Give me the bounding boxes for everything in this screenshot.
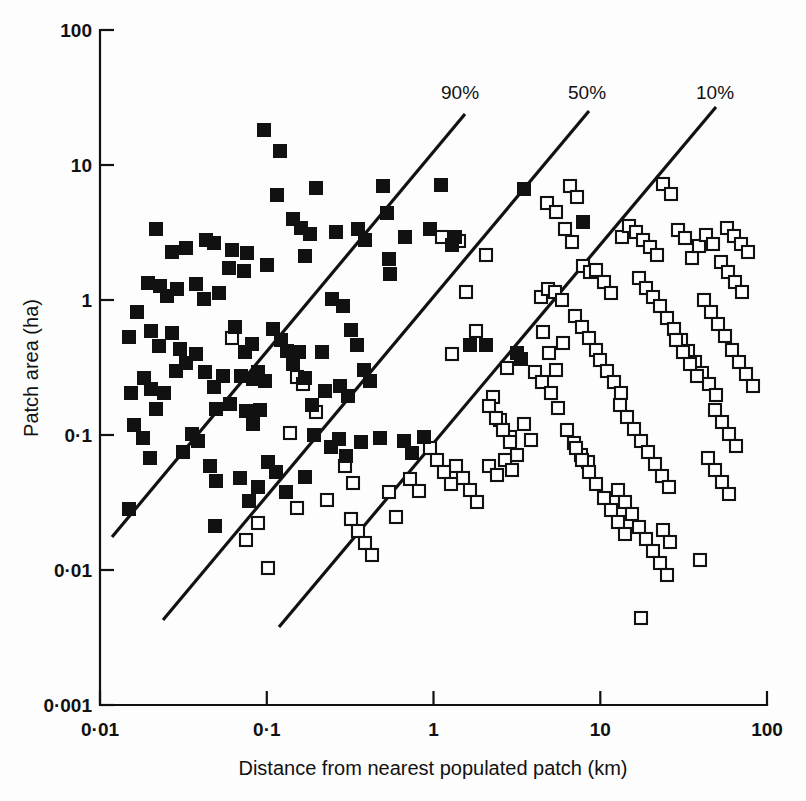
data-point-unoccupied	[383, 486, 395, 498]
y-tick-label: 10	[71, 155, 92, 176]
data-point-unoccupied	[284, 427, 296, 439]
data-point-unoccupied	[628, 423, 640, 435]
x-tick-label: 10	[590, 719, 611, 740]
data-point-occupied	[449, 231, 462, 244]
x-axis-ticks	[100, 691, 767, 705]
data-point-unoccupied	[446, 348, 458, 360]
data-point-unoccupied	[240, 534, 252, 546]
data-point-unoccupied	[621, 411, 633, 423]
data-point-occupied	[310, 182, 323, 195]
data-point-occupied	[131, 306, 144, 319]
data-point-occupied	[125, 387, 138, 400]
data-point-unoccupied	[470, 325, 482, 337]
data-point-unoccupied	[654, 300, 666, 312]
data-point-occupied	[204, 460, 217, 473]
data-point-unoccupied	[605, 287, 617, 299]
data-point-occupied	[166, 246, 179, 259]
data-point-unoccupied	[559, 223, 571, 235]
data-point-unoccupied	[723, 428, 735, 440]
y-tick-label: 1	[81, 290, 92, 311]
data-point-occupied	[198, 293, 211, 306]
y-axis-ticks	[100, 30, 114, 705]
data-point-occupied	[261, 259, 274, 272]
data-point-unoccupied	[705, 306, 717, 318]
data-point-occupied	[208, 237, 221, 250]
data-point-unoccupied	[707, 238, 719, 250]
data-point-unoccupied	[642, 446, 654, 458]
data-point-occupied	[374, 432, 387, 445]
data-point-unoccupied	[404, 473, 416, 485]
data-point-unoccupied	[619, 496, 631, 508]
data-point-occupied	[518, 183, 531, 196]
data-point-occupied	[254, 404, 267, 417]
data-point-occupied	[377, 180, 390, 193]
data-point-unoccupied	[504, 436, 516, 448]
data-point-occupied	[224, 398, 237, 411]
data-point-unoccupied	[663, 481, 675, 493]
figure-root: 100 10 1 0·1 0·01 0·001 0·01 0·1 1 10 10…	[0, 0, 806, 801]
data-point-unoccupied	[345, 513, 357, 525]
data-point-occupied	[480, 339, 493, 352]
data-point-occupied	[406, 447, 419, 460]
data-point-unoccupied	[661, 569, 673, 581]
data-point-unoccupied	[291, 502, 303, 514]
data-point-occupied	[247, 418, 260, 431]
data-point-unoccupied	[712, 318, 724, 330]
data-point-occupied	[270, 466, 283, 479]
y-axis-title: Patch area (ha)	[20, 299, 42, 437]
data-point-occupied	[316, 346, 329, 359]
data-point-unoccupied	[716, 416, 728, 428]
data-point-occupied	[340, 450, 353, 463]
data-point-unoccupied	[635, 612, 647, 624]
data-point-occupied	[241, 247, 254, 260]
data-point-occupied	[293, 346, 306, 359]
data-point-occupied	[424, 223, 437, 236]
data-point-unoccupied	[570, 442, 582, 454]
data-point-unoccupied	[501, 362, 513, 374]
data-point-unoccupied	[506, 464, 518, 476]
y-tick-label: 0·01	[54, 560, 92, 581]
data-point-occupied	[577, 216, 590, 229]
data-point-unoccupied	[413, 485, 425, 497]
data-point-unoccupied	[321, 494, 333, 506]
data-point-occupied	[166, 327, 179, 340]
data-point-unoccupied	[262, 562, 274, 574]
data-point-unoccupied	[686, 252, 698, 264]
data-point-occupied	[351, 339, 364, 352]
data-point-occupied	[177, 446, 190, 459]
data-point-unoccupied	[457, 472, 469, 484]
data-point-occupied	[239, 346, 252, 359]
data-point-unoccupied	[483, 400, 495, 412]
data-point-unoccupied	[736, 286, 748, 298]
data-point-occupied	[333, 433, 346, 446]
data-point-unoccupied	[366, 549, 378, 561]
y-tick-label: 100	[60, 20, 92, 41]
data-point-occupied	[345, 324, 358, 337]
data-point-unoccupied	[561, 424, 573, 436]
data-point-occupied	[145, 383, 158, 396]
data-point-occupied	[128, 419, 141, 432]
data-point-occupied	[192, 435, 205, 448]
data-point-occupied	[199, 366, 212, 379]
data-point-occupied	[515, 353, 528, 366]
isocline-label: 50%	[568, 82, 606, 103]
x-axis-title: Distance from nearest populated patch (k…	[238, 757, 627, 779]
data-point-occupied	[299, 250, 312, 263]
data-point-unoccupied	[450, 460, 462, 472]
data-point-unoccupied	[665, 188, 677, 200]
y-tick-label: 0·001	[43, 695, 92, 716]
data-point-unoccupied	[359, 537, 371, 549]
data-point-occupied	[464, 339, 477, 352]
data-point-occupied	[123, 331, 136, 344]
data-point-unoccupied	[490, 412, 502, 424]
data-point-unoccupied	[550, 364, 562, 376]
data-point-occupied	[364, 375, 377, 388]
data-point-occupied	[150, 403, 163, 416]
data-point-unoccupied	[583, 466, 595, 478]
data-point-occupied	[243, 495, 256, 508]
data-point-occupied	[150, 223, 163, 236]
data-point-occupied	[174, 343, 187, 356]
data-point-occupied	[319, 385, 332, 398]
data-point-occupied	[170, 365, 183, 378]
data-point-unoccupied	[497, 424, 509, 436]
